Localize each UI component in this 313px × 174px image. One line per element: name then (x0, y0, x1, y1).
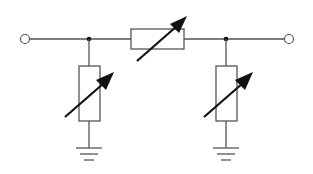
resistor-body (79, 66, 100, 121)
ground-icon (213, 148, 239, 160)
circuit-diagram (0, 0, 313, 174)
ground-icon (76, 148, 102, 160)
output-terminal (285, 35, 294, 44)
right-shunt-branch (204, 39, 253, 160)
left-shunt-branch (65, 39, 114, 160)
resistor-body (131, 29, 184, 49)
series-variable-resistor (131, 16, 187, 61)
resistor-body (216, 66, 237, 121)
input-terminal (21, 35, 30, 44)
